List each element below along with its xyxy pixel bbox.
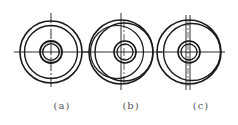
figure-b-caption: (b) [122, 100, 139, 111]
figure-a-caption: (a) [54, 100, 71, 111]
figure-c-caption: (c) [193, 100, 209, 111]
figure-b [83, 13, 162, 90]
figure-a [14, 13, 91, 88]
figure-c [157, 15, 225, 90]
